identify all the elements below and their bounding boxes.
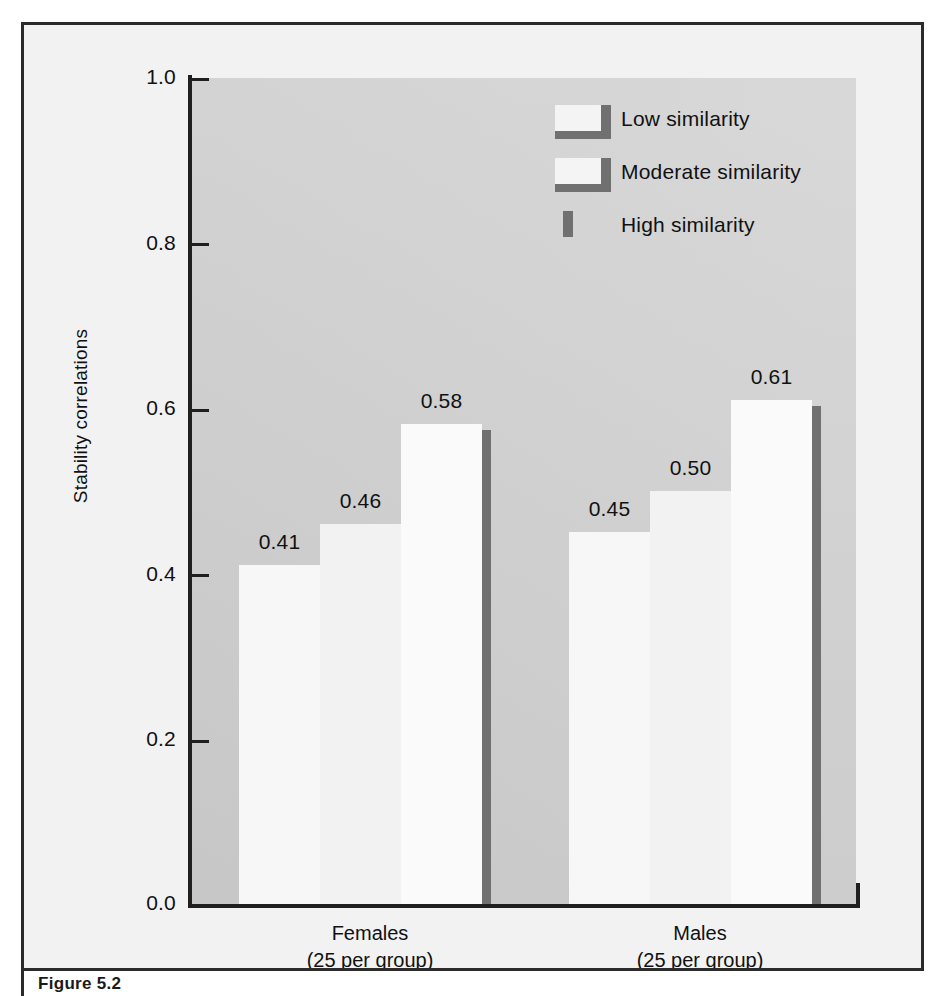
y-tick-0-6 [192, 409, 209, 412]
bar-side-shadow-males-high [812, 406, 821, 904]
y-tick-label-group: 1.0 0.8 0.6 0.4 0.2 0.0 [118, 25, 176, 970]
bar-value-males-low-similarity: 0.45 [569, 497, 650, 521]
legend-label-moderate-similarity: Moderate similarity [621, 160, 801, 184]
bar-side-shadow-females-high [482, 430, 491, 904]
legend-label-high-similarity: High similarity [621, 213, 755, 237]
bar-males-low-similarity [569, 532, 650, 904]
y-tick-0-2 [192, 740, 209, 743]
y-tick-0-8 [192, 243, 209, 246]
swatch-right-edge [601, 158, 611, 184]
bar-females-high-similarity [401, 424, 482, 904]
bar-females-moderate-similarity [320, 524, 401, 904]
x-group-label-females-main: Females [332, 922, 409, 944]
bar-value-females-low-similarity: 0.41 [239, 530, 320, 554]
x-axis-right-stub [856, 883, 860, 908]
y-tick-0-4 [192, 574, 209, 577]
bar-swatch-icon-low [555, 105, 611, 139]
bar-males-high-similarity [731, 400, 812, 904]
bar-males-moderate-similarity [650, 491, 731, 904]
caption-band: Figure 5.2 [24, 971, 921, 996]
x-axis-line [188, 904, 860, 908]
swatch-bottom-edge [555, 184, 611, 192]
swatch-right-edge [563, 211, 573, 237]
y-tick-label-0-2: 0.2 [118, 727, 176, 751]
bar-value-males-high-similarity: 0.61 [731, 365, 812, 389]
swatch-fill [555, 158, 601, 184]
swatch-bottom-edge [555, 131, 611, 139]
y-tick-0-0 [192, 904, 209, 907]
swatch-right-edge [601, 105, 611, 131]
bar-value-males-moderate-similarity: 0.50 [650, 456, 731, 480]
y-tick-label-0-4: 0.4 [118, 562, 176, 586]
bar-swatch-icon-moderate [555, 158, 611, 192]
figure-caption: Figure 5.2 [38, 974, 121, 994]
figure-frame: 1.0 0.8 0.6 0.4 0.2 0.0 Stability correl… [21, 22, 924, 970]
y-tick-label-0-8: 0.8 [118, 231, 176, 255]
figure-page: 1.0 0.8 0.6 0.4 0.2 0.0 Stability correl… [0, 0, 943, 996]
legend-label-low-similarity: Low similarity [621, 107, 750, 131]
y-axis-line [188, 75, 192, 908]
swatch-fill [555, 105, 601, 131]
bar-value-females-moderate-similarity: 0.46 [320, 489, 401, 513]
y-tick-label-0-6: 0.6 [118, 396, 176, 420]
x-group-label-males-main: Males [673, 922, 726, 944]
y-axis-title: Stability correlations [70, 301, 92, 531]
x-group-label-females: Females (25 per group) [280, 920, 460, 974]
x-group-label-males: Males (25 per group) [610, 920, 790, 974]
y-tick-1-0 [192, 78, 209, 81]
bar-value-females-high-similarity: 0.58 [401, 389, 482, 413]
bar-swatch-icon-high [555, 211, 611, 245]
y-tick-label-0-0: 0.0 [118, 891, 176, 915]
bar-females-low-similarity [239, 565, 320, 904]
y-tick-label-1-0: 1.0 [118, 65, 176, 89]
